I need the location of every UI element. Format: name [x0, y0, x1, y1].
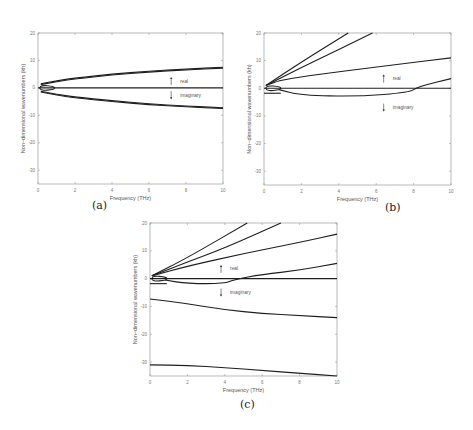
x-tick-label: 8 [298, 380, 301, 385]
x-tick-label: 8 [412, 189, 415, 194]
x-tick-label: 6 [261, 380, 264, 385]
x-tick-label: 4 [224, 380, 227, 385]
y-axis-label: Non−dimensional wavenumbers (kh) [246, 64, 252, 154]
x-tick-label: 10 [448, 189, 454, 194]
y-tick-label: -10 [254, 113, 261, 118]
series-line [165, 263, 337, 283]
x-tick-label: 8 [185, 188, 188, 193]
y-tick-label: 20 [142, 221, 148, 226]
x-tick-label: 6 [148, 188, 151, 193]
axes-frame [264, 33, 451, 185]
y-axis-label: Non−dimensional wavenumbers (kh) [132, 255, 138, 345]
x-tick-label: 0 [149, 380, 152, 385]
arrow-up-icon [170, 77, 172, 79]
arrow-down-icon [382, 110, 384, 112]
arrow-down-icon [170, 97, 172, 99]
x-axis-label: Frequency (THz) [337, 196, 378, 202]
x-axis-label: Frequency (THz) [223, 387, 264, 393]
y-tick-label: 10 [256, 58, 262, 63]
chart-panel-1: 024681020100-10-20-30Frequency (THz)Non−… [20, 31, 226, 202]
arrow-up-icon [382, 75, 384, 77]
figure-canvas: 024681020100-10-20-30Frequency (THz)Non−… [0, 0, 473, 430]
x-tick-label: 2 [300, 189, 303, 194]
series-line [152, 234, 337, 276]
x-tick-label: 2 [74, 188, 77, 193]
x-tick-label: 2 [186, 380, 189, 385]
y-tick-label: -30 [140, 360, 147, 365]
annotation-label: imaginary [180, 93, 201, 98]
y-tick-label: 0 [258, 86, 261, 91]
x-tick-label: 4 [338, 189, 341, 194]
series-line [279, 79, 451, 96]
annotation-label: real [180, 79, 188, 84]
x-axis-label: Frequency (THz) [110, 195, 151, 201]
y-axis-label: Non−dimensional wavenumbers (kh) [20, 64, 26, 154]
y-tick-label: -20 [140, 332, 147, 337]
arrow-up-icon [220, 265, 222, 267]
axes-frame [150, 223, 337, 376]
series-line [152, 223, 281, 276]
y-tick-label: -20 [28, 140, 35, 145]
x-tick-label: 0 [263, 189, 266, 194]
y-tick-label: 10 [142, 248, 148, 253]
x-tick-label: 6 [375, 189, 378, 194]
y-tick-label: -10 [28, 113, 35, 118]
y-tick-label: -10 [140, 304, 147, 309]
caption-c: (c) [240, 398, 255, 411]
axes-frame [38, 33, 223, 184]
caption-b: (b) [385, 201, 401, 214]
y-tick-label: -20 [254, 141, 261, 146]
x-tick-label: 0 [37, 188, 40, 193]
chart-panel-2: 024681020100-10-20-30Frequency (THz)Non−… [246, 31, 454, 203]
y-tick-label: -30 [28, 168, 35, 173]
chart-panel-3: 024681020100-10-20-30Frequency (THz)Non−… [132, 221, 340, 394]
series-line [41, 68, 223, 84]
x-tick-label: 4 [111, 188, 114, 193]
annotation-label: imaginary [393, 105, 414, 110]
y-tick-label: 20 [30, 31, 36, 36]
series-line [150, 299, 337, 318]
arrow-down-icon [220, 295, 222, 297]
y-tick-label: -30 [254, 169, 261, 174]
y-tick-label: 0 [144, 276, 147, 281]
series-line [150, 365, 337, 376]
y-tick-label: 10 [30, 58, 36, 63]
series-line [266, 33, 373, 86]
y-tick-label: 20 [256, 31, 262, 36]
x-tick-label: 10 [334, 380, 340, 385]
y-tick-label: 0 [32, 85, 35, 90]
annotation-label: real [230, 266, 238, 271]
annotation-label: imaginary [230, 290, 251, 295]
caption-a: (a) [92, 199, 107, 212]
series-line [266, 33, 348, 86]
annotation-label: real [393, 76, 401, 81]
x-tick-label: 10 [220, 188, 226, 193]
